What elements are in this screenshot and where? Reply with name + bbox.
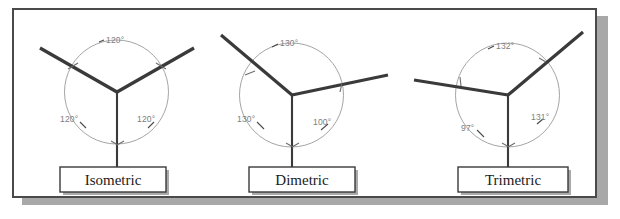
isometric-angle-right: 120° bbox=[137, 114, 155, 124]
trimetric-angle-top: 132° bbox=[496, 41, 514, 51]
isometric-angle-left: 120° bbox=[60, 114, 78, 124]
dimetric-angle-right: 100° bbox=[313, 117, 331, 127]
isometric-angle-top: 120° bbox=[106, 35, 124, 45]
figure-canvas: 120° 120° 120° Isometric 130° 130° 100° … bbox=[0, 0, 620, 219]
dimetric-angle-top: 130° bbox=[280, 38, 298, 48]
isometric-caption-label: Isometric bbox=[85, 172, 142, 188]
dimetric-angle-left: 130° bbox=[237, 114, 255, 124]
trimetric-angle-right: 131° bbox=[531, 112, 549, 122]
trimetric-caption-label: Trimetric bbox=[485, 172, 541, 188]
dimetric-caption-label: Dimetric bbox=[275, 172, 329, 188]
trimetric-angle-left: 97° bbox=[461, 123, 474, 133]
